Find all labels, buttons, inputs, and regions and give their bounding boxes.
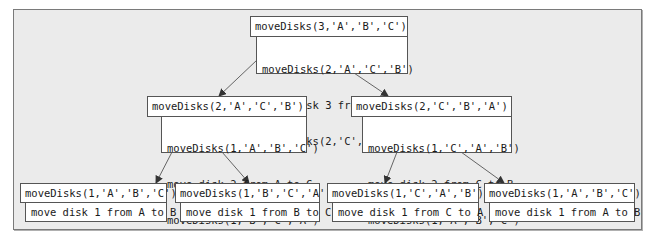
leaf1-call: moveDisks(1,'A','B','C') <box>20 183 167 203</box>
leaf4-call: moveDisks(1,'A','B','C') <box>484 183 635 203</box>
leaf1-body: move disk 1 from A to B <box>25 202 167 222</box>
root-call: moveDisks(3,'A','B','C') <box>250 16 408 37</box>
level2-left-body-line-1: moveDisks(1,'A','B','C') <box>167 142 301 154</box>
level2-right-body-line-1: moveDisks(1,'C','A','B') <box>368 142 506 154</box>
level2-left-call: moveDisks(2,'A','C','B') <box>147 96 307 117</box>
leaf3-call: moveDisks(1,'C','A','B') <box>327 183 479 203</box>
leaf3-body: move disk 1 from C to A <box>332 202 479 222</box>
root-body-line-1: moveDisks(2,'A','C','B') <box>262 63 402 75</box>
arrow-root-to-left <box>219 60 257 96</box>
level2-left-body: moveDisks(1,'A','B','C') move disk 2 fro… <box>161 115 307 153</box>
level2-right-call: moveDisks(2,'C','B','A') <box>351 96 512 117</box>
leaf2-body: move disk 1 from B to C <box>180 202 320 222</box>
level2-right-body: moveDisks(1,'C','A','B') move disk 2 fro… <box>362 115 512 153</box>
root-body: moveDisks(2,'A','C','B') move disk 3 fro… <box>256 36 408 74</box>
leaf2-call: moveDisks(1,'B','C','A') <box>175 183 320 203</box>
leaf4-body: move disk 1 from A to B <box>489 202 635 222</box>
